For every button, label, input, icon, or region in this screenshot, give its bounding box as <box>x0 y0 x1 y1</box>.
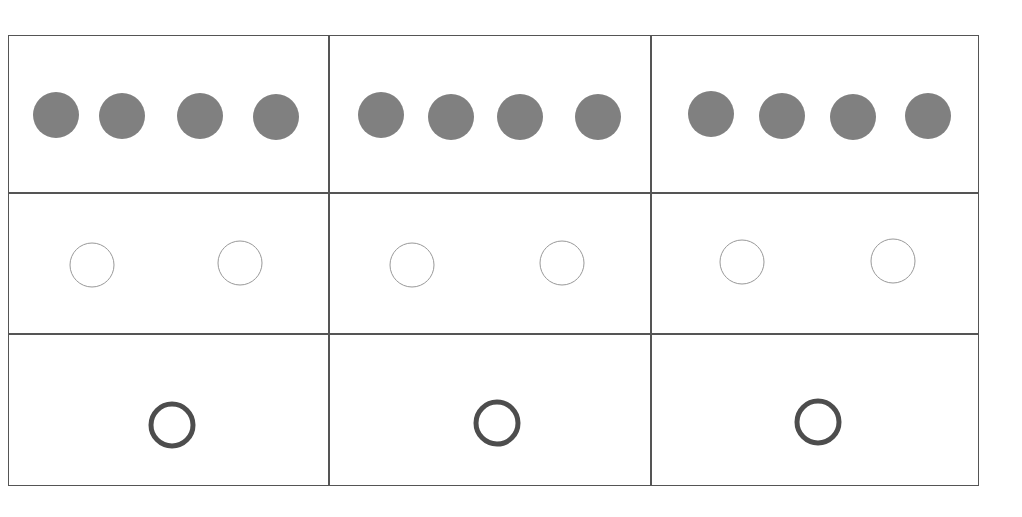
filled-circle-marker <box>358 92 404 138</box>
filled-circle-marker <box>759 93 805 139</box>
thin-outline-circle-marker <box>540 241 584 285</box>
filled-circle-marker <box>575 94 621 140</box>
thin-outline-circle-marker <box>70 243 114 287</box>
thick-ring-circle-marker <box>476 402 518 444</box>
thick-ring-circle-marker <box>797 401 839 443</box>
filled-circle-marker <box>830 94 876 140</box>
figure-canvas: Three-by-three grid of circle groups <box>0 0 1022 517</box>
thin-outline-circle-marker <box>720 240 764 284</box>
filled-circle-marker <box>33 92 79 138</box>
filled-circle-marker <box>177 93 223 139</box>
thin-outline-circle-marker <box>871 239 915 283</box>
series-row-2-thin-outline-circles <box>70 239 915 287</box>
circle-grid-svg <box>8 35 979 486</box>
thin-outline-circle-marker <box>218 241 262 285</box>
series-row-1-filled-circles <box>33 91 951 140</box>
thin-outline-circle-marker <box>390 243 434 287</box>
filled-circle-marker <box>253 94 299 140</box>
filled-circle-marker <box>905 93 951 139</box>
series-row-3-thick-ring-circles <box>151 401 839 446</box>
filled-circle-marker <box>99 93 145 139</box>
filled-circle-marker <box>688 91 734 137</box>
circle-grid-figure <box>8 35 979 486</box>
filled-circle-marker <box>497 94 543 140</box>
filled-circle-marker <box>428 94 474 140</box>
thick-ring-circle-marker <box>151 404 193 446</box>
